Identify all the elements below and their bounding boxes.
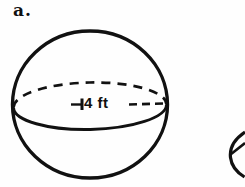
figure-label: a.	[13, 0, 32, 20]
sphere-diagram	[0, 0, 245, 187]
figure-panel: a. 4 ft	[0, 0, 245, 187]
radius-dashed-line	[129, 104, 165, 105]
radius-dimension-label: 4 ft	[84, 94, 109, 111]
